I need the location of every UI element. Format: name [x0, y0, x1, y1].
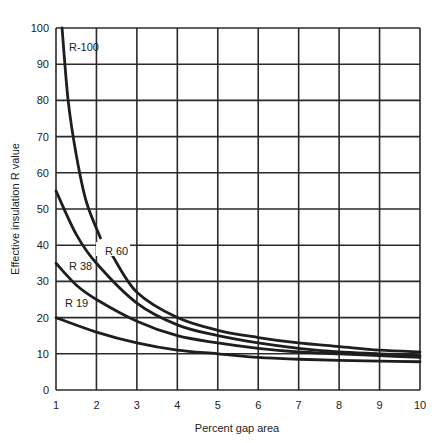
x-tick-label: 4	[174, 399, 180, 411]
label-r60: R 60	[105, 245, 128, 257]
y-tick-label: 0	[43, 384, 49, 396]
x-axis-label: Percent gap area	[195, 422, 280, 434]
x-tick-label: 9	[376, 399, 382, 411]
x-tick-label: 7	[296, 399, 302, 411]
label-r19: R 19	[65, 297, 88, 309]
y-tick-label: 30	[37, 275, 49, 287]
x-tick-label: 6	[255, 399, 261, 411]
x-tick-label: 3	[134, 399, 140, 411]
x-tick-label: 1	[53, 399, 59, 411]
label-r38: R 38	[69, 260, 92, 272]
y-tick-label: 60	[37, 167, 49, 179]
x-axis-ticks: 12345678910	[53, 399, 426, 411]
y-tick-label: 50	[37, 203, 49, 215]
curve-r100	[113, 256, 420, 352]
y-tick-label: 20	[37, 312, 49, 324]
x-tick-label: 5	[215, 399, 221, 411]
y-axis-ticks: 0102030405060708090100	[31, 22, 49, 396]
curve-r60	[56, 191, 420, 356]
x-tick-label: 8	[336, 399, 342, 411]
x-tick-label: 2	[93, 399, 99, 411]
y-tick-label: 80	[37, 94, 49, 106]
y-tick-label: 100	[31, 22, 49, 34]
y-tick-label: 70	[37, 131, 49, 143]
curve-r100	[62, 28, 100, 238]
y-tick-label: 40	[37, 239, 49, 251]
label-r100: R-100	[69, 41, 99, 53]
chart: 0102030405060708090100 12345678910 R-100…	[0, 0, 445, 443]
x-tick-label: 10	[414, 399, 426, 411]
y-tick-label: 10	[37, 348, 49, 360]
y-tick-label: 90	[37, 58, 49, 70]
y-axis-label: Effective insulation R value	[9, 143, 21, 275]
curves	[56, 28, 420, 362]
